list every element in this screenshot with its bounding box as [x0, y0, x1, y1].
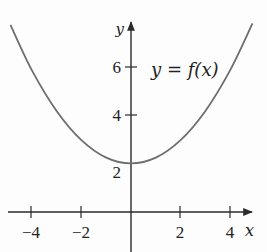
x-tick-label: 4	[226, 223, 235, 242]
x-tick-label: −4	[22, 223, 41, 242]
y-tick-label: 2	[113, 163, 122, 182]
y-tick-label: 4	[113, 106, 122, 125]
chart-svg: −4 −2 2 4 6 4 2 y x y = f(x)	[0, 0, 267, 252]
x-axis-label: x	[245, 221, 254, 240]
x-tick-label: −2	[72, 223, 90, 242]
curve-label: y = f(x)	[150, 59, 219, 80]
chart-figure: −4 −2 2 4 6 4 2 y x y = f(x)	[0, 0, 267, 252]
y-axis-label: y	[115, 20, 125, 38]
y-tick-label: 6	[113, 58, 122, 77]
x-tick-label: 2	[176, 223, 185, 242]
